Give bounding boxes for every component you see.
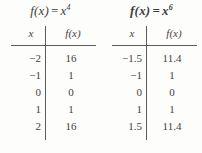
cell-x: 0 — [8, 84, 41, 101]
table-body: −1.5 11.4 −1 1 0 0 1 1 1.5 11.4 — [101, 50, 202, 135]
cell-fx: 1 — [151, 101, 193, 118]
table-row: 1 1 — [0, 101, 101, 118]
table-row: −1 1 — [101, 67, 202, 84]
cell-x: 1.5 — [109, 118, 142, 135]
cell-x: −1 — [109, 67, 142, 84]
table-row: −1 1 — [0, 67, 101, 84]
column-header-fx: f(x) — [155, 26, 193, 40]
table-row: −2 16 — [0, 50, 101, 67]
cell-fx: 0 — [151, 84, 193, 101]
cell-fx: 1 — [151, 67, 193, 84]
table-row: 2 16 — [0, 118, 101, 135]
cell-fx: 11.4 — [151, 118, 193, 135]
table-row: −1.5 11.4 — [101, 50, 202, 67]
function-table-x6: f(x)=x6 x f(x) −1.5 11.4 −1 1 0 0 1 1 — [101, 0, 202, 153]
column-header-fx: f(x) — [54, 26, 92, 40]
table-title-x6: f(x)=x6 — [101, 3, 202, 19]
header-horizontal-rule — [112, 45, 197, 46]
title-equals-sign: = — [150, 3, 162, 18]
cell-x: 1 — [8, 101, 41, 118]
cell-fx: 1 — [50, 67, 92, 84]
table-row: 0 0 — [0, 84, 101, 101]
column-header-x: x — [20, 26, 42, 40]
table-body: −2 16 −1 1 0 0 1 1 2 16 — [0, 50, 101, 135]
cell-x: 1 — [109, 101, 142, 118]
title-equals-sign: = — [49, 3, 61, 18]
cell-fx: 16 — [50, 118, 92, 135]
title-exponent: 4 — [67, 3, 71, 12]
cell-x: −2 — [8, 50, 41, 67]
cell-fx: 1 — [50, 101, 92, 118]
cell-fx: 0 — [50, 84, 92, 101]
function-tables-figure: f(x)=x4 x f(x) −2 16 −1 1 0 0 1 1 — [0, 0, 202, 153]
cell-fx: 11.4 — [151, 50, 193, 67]
function-table-x4: f(x)=x4 x f(x) −2 16 −1 1 0 0 1 1 — [0, 0, 101, 153]
table-title-x4: f(x)=x4 — [0, 3, 101, 19]
title-base: x — [162, 3, 169, 18]
header-horizontal-rule — [11, 45, 96, 46]
table-row: 1.5 11.4 — [101, 118, 202, 135]
column-header-x: x — [121, 26, 143, 40]
title-function-name: f(x) — [30, 3, 49, 18]
cell-x: −1 — [8, 67, 41, 84]
table-row: 0 0 — [101, 84, 202, 101]
cell-x: 2 — [8, 118, 41, 135]
title-function-name: f(x) — [130, 3, 150, 18]
cell-x: 0 — [109, 84, 142, 101]
cell-fx: 16 — [50, 50, 92, 67]
cell-x: −1.5 — [109, 50, 142, 67]
table-row: 1 1 — [101, 101, 202, 118]
title-exponent: 6 — [169, 3, 173, 12]
